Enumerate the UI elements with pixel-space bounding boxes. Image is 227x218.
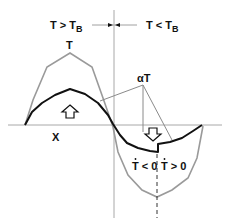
leader-line-left (100, 85, 143, 101)
diagram-canvas: T > TB T < TB T αT X T < 0 T > 0 (0, 0, 227, 218)
down-arrow-icon (145, 128, 161, 141)
label-rate-negative: T < 0 (132, 160, 157, 172)
label-t-greater-tb: T > TB (50, 19, 83, 34)
dot-over-t-right (164, 158, 166, 160)
dot-over-t-left (135, 158, 137, 160)
label-curve-t: T (66, 39, 73, 51)
arrowhead-left-icon (115, 23, 120, 27)
label-t-less-tb: T < TB (146, 19, 179, 34)
label-rate-positive: T > 0 (161, 160, 186, 172)
up-arrow-icon (62, 105, 78, 118)
label-x-axis: X (52, 131, 60, 143)
label-curve-alpha-t: αT (137, 72, 151, 84)
arrowhead-right-icon (108, 23, 113, 27)
